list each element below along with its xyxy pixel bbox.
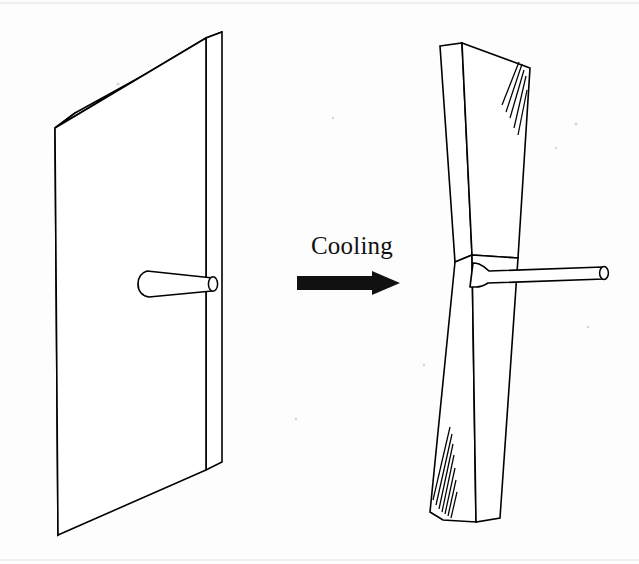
process-annotation: Cooling bbox=[297, 232, 400, 295]
plate-right-thickness-face bbox=[206, 32, 222, 470]
figure-canvas: Cooling bbox=[0, 0, 639, 564]
pin-end-cap bbox=[208, 277, 217, 291]
warpage-diagram: Cooling bbox=[0, 0, 639, 564]
cooling-label: Cooling bbox=[311, 232, 393, 259]
right-twisted-plate bbox=[430, 43, 608, 522]
twisted-lower-right-thickness bbox=[472, 255, 518, 522]
left-flat-plate bbox=[55, 32, 222, 535]
right-arrow-icon bbox=[297, 271, 400, 295]
twisted-upper-face bbox=[462, 43, 530, 258]
pin-end-cap bbox=[600, 267, 609, 280]
